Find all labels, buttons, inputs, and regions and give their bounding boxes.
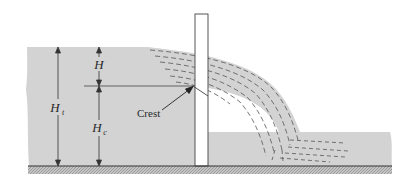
label-crest: Crest bbox=[137, 107, 160, 119]
weir-diagram: H H t H c Crest bbox=[0, 0, 417, 185]
ground-hatch bbox=[28, 166, 392, 174]
label-crest-height-sub: c bbox=[103, 128, 107, 137]
label-head: H bbox=[93, 57, 104, 72]
label-crest-height: H bbox=[91, 120, 102, 135]
weir-plate bbox=[195, 14, 208, 166]
label-total-height: H bbox=[49, 100, 60, 115]
